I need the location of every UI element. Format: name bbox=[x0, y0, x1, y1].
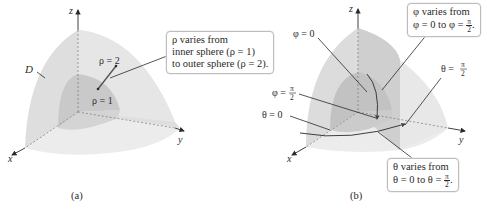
theta-half-pi-label: θ = bbox=[441, 63, 454, 74]
svg-text:π: π bbox=[290, 84, 294, 93]
figure-a: z x y D ρ = 2 ρ = 1 bbox=[7, 5, 184, 164]
caption-a: (a) bbox=[71, 190, 83, 201]
svg-text:π: π bbox=[461, 60, 465, 69]
svg-text:2: 2 bbox=[461, 69, 465, 78]
theta-callout: θ varies from θ = 0 to θ = π2. bbox=[387, 158, 459, 192]
z-axis-label-b: z bbox=[348, 3, 353, 14]
y-axis-label-b: y bbox=[458, 134, 464, 145]
phi-callout: φ varies from φ = 0 to φ = π2. bbox=[407, 3, 481, 37]
phi-zero-label: φ = 0 bbox=[293, 28, 314, 39]
svg-text:2: 2 bbox=[290, 93, 294, 102]
y-axis-label: y bbox=[177, 134, 183, 145]
theta-zero-label: θ = 0 bbox=[262, 109, 282, 120]
x-axis-label: x bbox=[7, 153, 13, 164]
rho-inner-label: ρ = 1 bbox=[92, 95, 113, 106]
y-axis-b bbox=[448, 128, 465, 131]
x-axis-b bbox=[292, 147, 306, 155]
x-axis-label-b: x bbox=[286, 153, 292, 164]
caption-b: (b) bbox=[350, 190, 362, 201]
z-axis-label: z bbox=[68, 5, 73, 16]
x-axis bbox=[12, 148, 25, 155]
rho-callout: ρ varies from inner sphere (ρ = 1) to ou… bbox=[166, 31, 274, 74]
phi-half-pi-label: φ = bbox=[272, 87, 286, 98]
region-label-d: D bbox=[24, 63, 33, 75]
rho-outer-label: ρ = 2 bbox=[99, 55, 120, 66]
